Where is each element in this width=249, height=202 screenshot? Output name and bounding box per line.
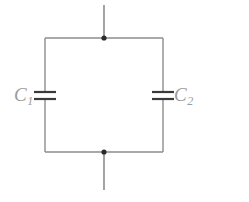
bottom-junction-dot [101, 149, 106, 154]
capacitor-left-label-symbol: C [14, 84, 27, 105]
circuit-diagram-canvas: C1 C2 [0, 0, 249, 202]
capacitor-left-label-subscript: 1 [27, 94, 34, 108]
capacitor-right-symbol [152, 92, 174, 99]
capacitor-right-label-symbol: C [174, 84, 187, 105]
capacitor-right-label-subscript: 2 [187, 94, 194, 108]
top-junction-dot [101, 35, 106, 40]
capacitor-right-label: C2 [174, 85, 193, 107]
circuit-schematic [0, 0, 249, 202]
capacitor-left-label: C1 [14, 85, 33, 107]
capacitor-left-symbol [34, 92, 56, 99]
